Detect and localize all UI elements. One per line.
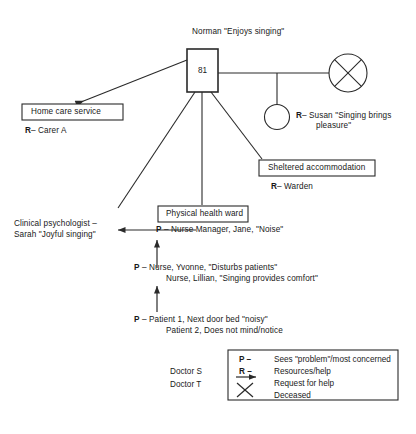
sheltered-dash: – bbox=[277, 182, 282, 191]
legend-row: Deceased bbox=[234, 390, 391, 402]
nurses-text-line2: Nurse, Lillian, "Singing provides comfor… bbox=[166, 274, 318, 285]
legend-row: P – Sees "problem"/most concerned bbox=[234, 354, 391, 366]
ego-age-label: 81 bbox=[187, 66, 218, 75]
legend-symbol-r: R – bbox=[234, 366, 274, 378]
legend-desc-r: Resources/help bbox=[274, 366, 331, 378]
susan-dash: – bbox=[302, 111, 307, 120]
link-sheltered-accommodation bbox=[211, 92, 262, 159]
nurse-manager-dash: – bbox=[164, 225, 169, 234]
susan-label-line1: R– Susan "Singing brings bbox=[296, 111, 391, 122]
home-care-resource-line: R– Carer A bbox=[25, 126, 67, 137]
nurse-manager-code: P bbox=[156, 225, 162, 234]
susan-text-line2: pleasure" bbox=[316, 121, 351, 132]
nurse-manager-text: Nurse Manager, Jane, "Noise" bbox=[171, 225, 283, 234]
legend: P – Sees "problem"/most concerned R – Re… bbox=[234, 354, 391, 402]
sheltered-resource-line: R– Warden bbox=[271, 182, 313, 193]
legend-row: Request for help bbox=[234, 378, 391, 390]
clinical-psychologist-line2: Sarah "Joyful singing" bbox=[14, 230, 96, 241]
patients-code: P bbox=[134, 315, 140, 324]
legend-row: R – Resources/help bbox=[234, 366, 391, 378]
susan-circle bbox=[265, 105, 290, 130]
sheltered-box-label: Sheltered accommodation bbox=[268, 163, 365, 172]
nurses-code: P bbox=[134, 263, 140, 272]
nurse-manager-line: P – Nurse Manager, Jane, "Noise" bbox=[156, 225, 283, 236]
home-care-box-label: Home care service bbox=[31, 107, 101, 116]
link-home-care bbox=[76, 60, 187, 104]
sheltered-resource-text: Warden bbox=[284, 182, 313, 191]
home-care-dash: – bbox=[31, 126, 36, 135]
physical-health-ward-label: Physical health ward bbox=[166, 209, 243, 218]
home-care-resource-text: Carer A bbox=[38, 126, 66, 135]
nurses-line1: P – Nurse, Yvonne, "Disturbs patients" bbox=[134, 263, 277, 274]
patients-text-line2: Patient 2, Does not mind/notice bbox=[166, 326, 283, 337]
legend-desc-cross: Deceased bbox=[274, 390, 311, 402]
doctor-s-label: Doctor S bbox=[170, 366, 202, 379]
legend-desc-arrow: Request for help bbox=[274, 378, 334, 390]
legend-desc-p: Sees "problem"/most concerned bbox=[274, 354, 391, 366]
patients-text-line1: Patient 1, Next door bed "noisy" bbox=[149, 315, 268, 324]
susan-text-line1: Susan "Singing brings bbox=[309, 111, 391, 120]
clinical-psychologist-line1: Clinical psychologist – bbox=[14, 219, 97, 230]
patients-line1: P – Patient 1, Next door bed "noisy" bbox=[134, 315, 268, 326]
patients-dash: – bbox=[142, 315, 147, 324]
page-title: Norman "Enjoys singing" bbox=[192, 27, 284, 38]
doctor-t-label: Doctor T bbox=[170, 379, 201, 392]
nurses-text-line1: Nurse, Yvonne, "Disturbs patients" bbox=[149, 263, 277, 272]
link-clinical-psychologist bbox=[118, 92, 195, 208]
nurses-dash: – bbox=[142, 263, 147, 272]
legend-symbol-p: P – bbox=[234, 354, 274, 366]
